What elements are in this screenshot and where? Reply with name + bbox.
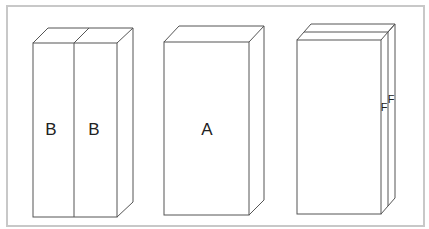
diagram-canvas bbox=[0, 0, 429, 229]
box-2 bbox=[164, 26, 264, 215]
panel-label-f-front: F bbox=[381, 101, 388, 113]
panel-label-f-back: F bbox=[388, 93, 395, 105]
panel-label-a: A bbox=[201, 120, 212, 140]
panel-label-b-right: B bbox=[88, 120, 99, 140]
box-3 bbox=[297, 24, 395, 214]
diagram-frame bbox=[7, 6, 424, 226]
panel-label-b-left: B bbox=[45, 120, 56, 140]
